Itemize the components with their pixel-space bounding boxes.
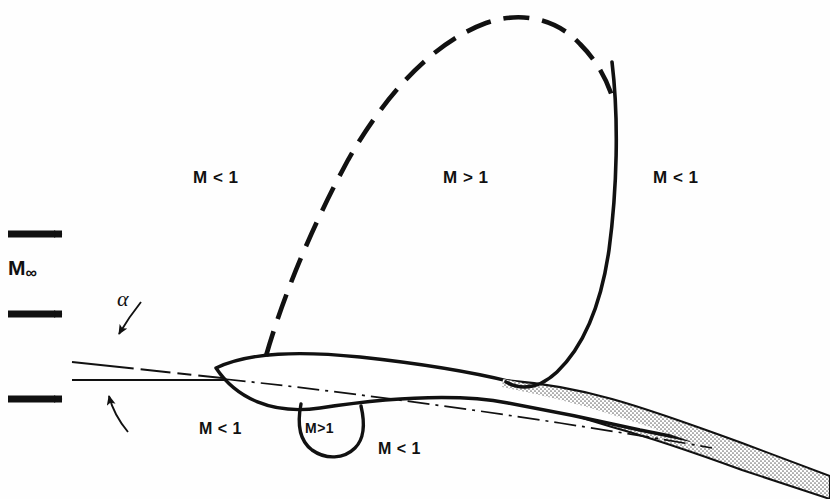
shock-wave — [506, 62, 616, 387]
region-label-upper-supersonic: M > 1 — [443, 168, 489, 188]
region-label-lower-supersonic-bubble: M>1 — [305, 420, 334, 436]
region-label-upper-right-subsonic: M < 1 — [653, 168, 699, 188]
region-label-upper-left-subsonic: M < 1 — [193, 168, 239, 188]
freestream-mach-label: M∞ — [8, 256, 36, 282]
freestream-infinity-subscript: ∞ — [26, 264, 36, 281]
chord-extension-line — [72, 362, 222, 378]
transonic-flow-figure: M∞ α M < 1M > 1M < 1M < 1M>1M < 1 — [0, 0, 830, 499]
sonic-line — [266, 17, 612, 356]
alpha-leader-lower — [109, 396, 128, 432]
figure-canvas — [0, 0, 830, 499]
region-label-lower-left-subsonic: M < 1 — [199, 420, 242, 438]
freestream-mach-symbol: M — [8, 256, 26, 279]
region-label-lower-right-subsonic: M < 1 — [378, 440, 421, 458]
angle-of-attack-symbol: α — [117, 286, 129, 312]
